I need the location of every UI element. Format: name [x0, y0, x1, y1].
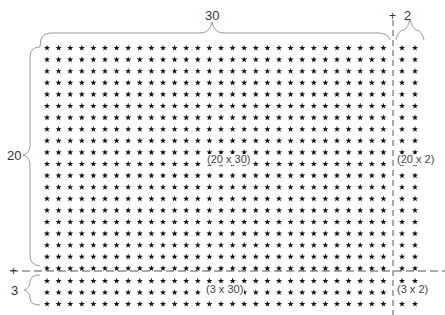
star-icon: [148, 184, 154, 190]
star-icon: [264, 196, 270, 202]
star-icon: [172, 114, 178, 120]
star-icon: [183, 126, 189, 132]
star-icon: [148, 103, 154, 109]
star-icon: [241, 242, 247, 248]
star-icon: [299, 161, 305, 167]
star-icon: [357, 114, 363, 120]
star-icon: [311, 91, 317, 97]
star-icon: [148, 196, 154, 202]
star-icon: [90, 45, 96, 51]
star-icon: [44, 230, 50, 236]
star-icon: [288, 301, 294, 307]
star-icon: [399, 207, 405, 213]
star-icon: [183, 207, 189, 213]
star-icon: [137, 126, 143, 132]
star-icon: [206, 265, 212, 271]
star-icon: [230, 301, 236, 307]
star-icon: [241, 80, 247, 86]
star-icon: [56, 80, 62, 86]
star-icon: [206, 56, 212, 62]
star-icon: [183, 161, 189, 167]
star-icon: [346, 265, 352, 271]
star-icon: [412, 114, 418, 120]
star-icon: [160, 126, 166, 132]
star-icon: [218, 114, 224, 120]
star-icon: [380, 91, 386, 97]
star-icon: [172, 278, 178, 284]
star-icon: [195, 278, 201, 284]
star-icon: [346, 103, 352, 109]
star-icon: [276, 265, 282, 271]
star-icon: [183, 91, 189, 97]
star-icon: [195, 45, 201, 51]
star-icon: [346, 80, 352, 86]
star-icon: [79, 138, 85, 144]
star-icon: [322, 114, 328, 120]
star-icon: [299, 114, 305, 120]
star-icon: [102, 114, 108, 120]
star-icon: [230, 184, 236, 190]
star-icon: [288, 289, 294, 295]
star-icon: [241, 230, 247, 236]
star-icon: [160, 254, 166, 260]
star-icon: [67, 265, 73, 271]
star-icon: [160, 103, 166, 109]
star-icon: [90, 207, 96, 213]
star-icon: [218, 45, 224, 51]
star-icon: [44, 265, 50, 271]
star-icon: [79, 265, 85, 271]
star-icon: [276, 278, 282, 284]
star-icon: [334, 80, 340, 86]
star-icon: [230, 103, 236, 109]
star-icon: [276, 103, 282, 109]
star-icon: [137, 172, 143, 178]
star-icon: [137, 301, 143, 307]
star-icon: [357, 265, 363, 271]
star-icon: [56, 254, 62, 260]
star-icon: [253, 254, 259, 260]
star-icon: [380, 196, 386, 202]
star-icon: [56, 289, 62, 295]
star-icon: [79, 254, 85, 260]
star-icon: [346, 172, 352, 178]
star-icon: [102, 278, 108, 284]
star-icon: [264, 45, 270, 51]
star-icon: [357, 149, 363, 155]
star-icon: [44, 207, 50, 213]
star-icon: [346, 278, 352, 284]
star-icon: [195, 172, 201, 178]
star-icon: [322, 126, 328, 132]
star-icon: [90, 126, 96, 132]
star-icon: [102, 265, 108, 271]
star-icon: [148, 301, 154, 307]
star-icon: [44, 103, 50, 109]
star-icon: [195, 207, 201, 213]
star-icon: [311, 126, 317, 132]
star-icon: [399, 56, 405, 62]
star-icon: [90, 114, 96, 120]
star-icon: [172, 230, 178, 236]
star-icon: [299, 265, 305, 271]
star-icon: [369, 184, 375, 190]
star-icon: [357, 68, 363, 74]
star-icon: [288, 196, 294, 202]
star-icon: [44, 301, 50, 307]
star-icon: [56, 138, 62, 144]
star-icon: [160, 68, 166, 74]
star-icon: [160, 301, 166, 307]
star-icon: [311, 301, 317, 307]
star-icon: [114, 254, 120, 260]
star-icon: [399, 219, 405, 225]
star-icon: [125, 254, 131, 260]
star-icon: [44, 242, 50, 248]
star-icon: [334, 230, 340, 236]
star-icon: [137, 138, 143, 144]
star-icon: [160, 278, 166, 284]
star-icon: [334, 91, 340, 97]
star-icon: [380, 207, 386, 213]
star-icon: [230, 230, 236, 236]
star-icon: [172, 207, 178, 213]
width-2-label: 2: [404, 9, 411, 22]
star-icon: [114, 114, 120, 120]
star-icon: [276, 45, 282, 51]
